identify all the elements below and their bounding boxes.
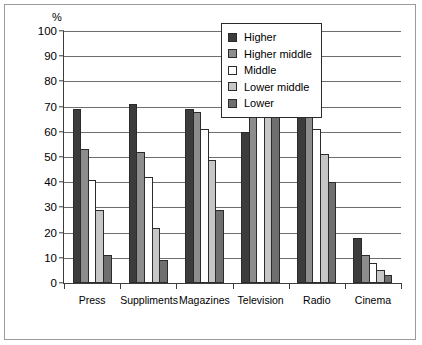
legend-item-label: Middle	[244, 64, 276, 76]
chart-figure: % 0102030405060708090100 PressSuppliment…	[4, 4, 416, 340]
x-axis-category-label: Radio	[289, 294, 345, 306]
bar-group: Cinema	[345, 31, 401, 283]
x-axis-tick-mark	[64, 283, 65, 289]
x-axis-category-label: Cinema	[345, 294, 401, 306]
legend-item-label: Lower middle	[244, 81, 309, 93]
bar	[384, 275, 393, 283]
legend-swatch-icon	[228, 66, 237, 75]
bar-stack	[73, 31, 112, 283]
x-axis-category-label: Magazines	[176, 294, 232, 306]
bar	[103, 255, 112, 283]
x-axis-category-label: Television	[233, 294, 289, 306]
y-axis-tick-label: 50	[44, 151, 57, 163]
y-axis-tick-label: 90	[44, 50, 57, 62]
bar	[159, 260, 168, 283]
x-axis-tick-mark	[233, 283, 234, 289]
legend-swatch-icon	[228, 99, 237, 108]
x-axis-tick-mark	[176, 283, 177, 289]
legend-swatch-icon	[228, 33, 237, 42]
y-axis-unit-label: %	[52, 11, 62, 23]
legend-swatch-icon	[228, 49, 237, 58]
legend-item: Lower	[228, 95, 312, 112]
x-axis-category-label: Suppliments	[120, 294, 176, 306]
bar	[215, 210, 224, 283]
y-axis-tick-label: 20	[44, 227, 57, 239]
x-axis-tick-mark	[345, 283, 346, 289]
y-axis-tick-label: 40	[44, 176, 57, 188]
y-axis-tick-label: 0	[51, 277, 57, 289]
y-axis-tick-label: 30	[44, 201, 57, 213]
x-axis-tick-mark	[289, 283, 290, 289]
legend-item: Higher middle	[228, 46, 312, 63]
legend-item: Middle	[228, 62, 312, 79]
legend-item: Higher	[228, 29, 312, 46]
y-axis-tick-label: 80	[44, 75, 57, 87]
y-axis-tick-label: 10	[44, 252, 57, 264]
bar-stack	[185, 31, 224, 283]
bar-group: Suppliments	[120, 31, 176, 283]
y-axis-tick-label: 60	[44, 126, 57, 138]
legend-swatch-icon	[228, 82, 237, 91]
bar-stack	[129, 31, 168, 283]
x-axis-category-label: Press	[64, 294, 120, 306]
legend-item-label: Higher middle	[244, 48, 312, 60]
bar	[328, 182, 337, 283]
x-axis-tick-mark	[401, 283, 402, 289]
x-axis-tick-mark	[120, 283, 121, 289]
legend-item: Lower middle	[228, 79, 312, 96]
y-axis-tick-label: 100	[38, 25, 57, 37]
legend: HigherHigher middleMiddleLower middleLow…	[221, 23, 322, 118]
legend-item-label: Higher	[244, 31, 276, 43]
y-axis-tick-label: 70	[44, 101, 57, 113]
legend-item-label: Lower	[244, 97, 274, 109]
bar-group: Press	[64, 31, 120, 283]
bar-stack	[353, 31, 392, 283]
